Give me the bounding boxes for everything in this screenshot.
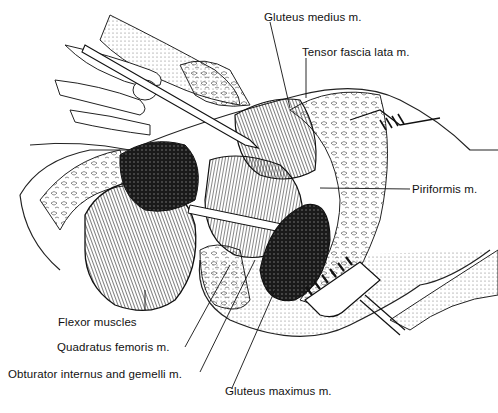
anatomy-figure: Gluteus medius m. Tensor fascia lata m. … (0, 0, 498, 413)
label-quadratus-femoris: Quadratus femoris m. (57, 341, 170, 353)
label-tensor-fascia-lata: Tensor fascia lata m. (302, 46, 410, 58)
label-flexor-muscles: Flexor muscles (58, 316, 137, 328)
label-gluteus-maximus: Gluteus maximus m. (225, 385, 332, 397)
label-gluteus-medius: Gluteus medius m. (264, 11, 362, 23)
label-obturator-internus-gemelli: Obturator internus and gemelli m. (8, 368, 182, 380)
label-piriformis: Piriformis m. (412, 183, 477, 195)
